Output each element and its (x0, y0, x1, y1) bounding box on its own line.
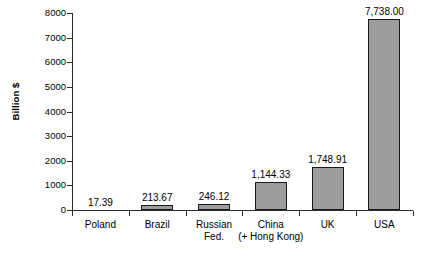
y-axis-tick-label: 4000 (22, 107, 66, 117)
x-axis-tick (242, 211, 243, 216)
x-axis-tick (186, 211, 187, 216)
y-axis-tick-label-wrap: 8000 (0, 8, 66, 18)
y-axis-tick-label-wrap: 3000 (0, 131, 66, 141)
y-axis-tick-label-wrap: 5000 (0, 82, 66, 92)
bar (312, 167, 344, 210)
bar (141, 205, 173, 210)
y-axis-tick-label: 7000 (22, 33, 66, 43)
y-axis-tick-label-wrap: 7000 (0, 33, 66, 43)
y-axis-tick-label: 2000 (22, 156, 66, 166)
y-axis-tick-label-wrap: 6000 (0, 57, 66, 67)
bar (368, 19, 400, 210)
category-label-line2: (+ Hong Kong) (221, 231, 321, 243)
x-axis-tick (299, 211, 300, 216)
bar-value-label: 246.12 (164, 191, 264, 202)
y-axis-tick-label-wrap: 1000 (0, 180, 66, 190)
bar-chart: Billion $ 010002000300040005000600070008… (0, 0, 424, 258)
x-axis-tick (72, 211, 73, 216)
y-axis-tick-label: 8000 (22, 8, 66, 18)
bar (198, 204, 230, 210)
category-label-line1: USA (374, 219, 395, 230)
bar-value-label: 1,144.33 (221, 169, 321, 180)
y-axis-line (72, 13, 73, 211)
bar (255, 182, 287, 210)
x-axis-tick (129, 211, 130, 216)
category-label-line1: UK (321, 219, 335, 230)
y-axis-tick-label: 3000 (22, 131, 66, 141)
bar-value-label: 1,748.91 (278, 154, 378, 165)
y-axis-tick-label: 6000 (22, 57, 66, 67)
y-axis-tick-label-wrap: 2000 (0, 156, 66, 166)
bar-value-label: 7,738.00 (334, 6, 424, 17)
x-axis-tick (413, 211, 414, 216)
y-axis-tick-label-wrap: 4000 (0, 107, 66, 117)
x-axis-category-label: USA (334, 219, 424, 231)
x-axis-tick (356, 211, 357, 216)
y-axis-tick-label: 5000 (22, 82, 66, 92)
y-axis-tick-label: 1000 (22, 180, 66, 190)
